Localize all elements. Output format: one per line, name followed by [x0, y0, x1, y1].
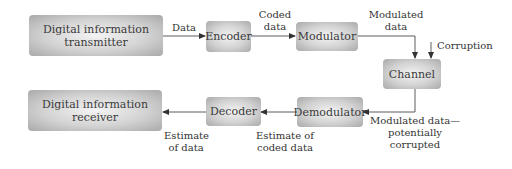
modulated-data-line1: Modulated [360, 9, 432, 21]
coded-data-line2: data [256, 21, 294, 33]
modulated-corrupted-line1: Modulated data— [370, 115, 460, 127]
receiver-label-line1: Digital information [42, 98, 148, 111]
estimate-coded-line2: coded data [254, 142, 316, 154]
modulated-corrupted-line3: corrupted [370, 139, 460, 151]
estimate-data-label: Estimate of data [164, 130, 208, 154]
modulator-node: Modulator [296, 22, 358, 51]
transmitter-label-line2: transmitter [43, 36, 149, 49]
estimate-data-line2: of data [164, 142, 208, 154]
communication-diagram: Digital information transmitter Encoder … [0, 0, 512, 169]
modulated-data-line2: data [360, 21, 432, 33]
estimate-data-line1: Estimate [164, 130, 208, 142]
coded-data-label: Coded data [256, 9, 294, 33]
channel-label: Channel [389, 68, 435, 81]
decoder-label: Decoder [210, 105, 257, 118]
modulated-corrupted-line2: potentially [370, 127, 460, 139]
corruption-label: Corruption [437, 40, 493, 52]
receiver-label-line2: receiver [42, 111, 148, 124]
estimate-coded-line1: Estimate of [254, 130, 316, 142]
encoder-label: Encoder [205, 30, 252, 43]
modulator-label: Modulator [298, 30, 356, 43]
modulated-data-label: Modulated data [360, 9, 432, 33]
decoder-node: Decoder [206, 97, 261, 126]
demodulator-label: Demodulator [294, 106, 367, 119]
data-label: Data [172, 22, 196, 34]
estimate-coded-label: Estimate of coded data [254, 130, 316, 154]
transmitter-node: Digital information transmitter [29, 15, 163, 56]
encoder-node: Encoder [206, 21, 251, 52]
channel-node: Channel [383, 59, 441, 89]
modulated-corrupted-label: Modulated data— potentially corrupted [370, 115, 460, 151]
transmitter-label-line1: Digital information [43, 23, 149, 36]
demodulator-node: Demodulator [297, 97, 363, 127]
coded-data-line1: Coded [256, 9, 294, 21]
receiver-node: Digital information receiver [28, 90, 162, 131]
